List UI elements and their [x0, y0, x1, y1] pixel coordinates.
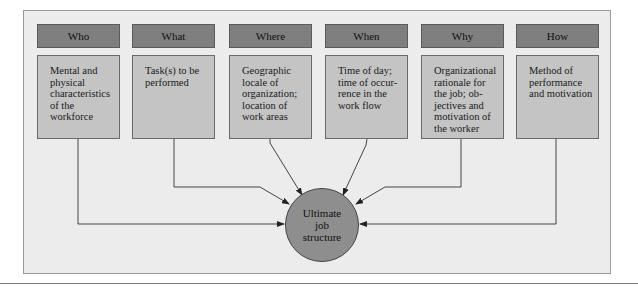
arrow-how: [360, 139, 556, 224]
arrow-why: [356, 139, 461, 204]
arrow-what: [174, 139, 289, 204]
arrow-who: [78, 139, 284, 224]
arrow-where: [270, 139, 302, 195]
ultimate-job-structure-node: Ultimate job structure: [285, 188, 359, 262]
arrow-when: [343, 139, 367, 195]
center-label: Ultimate job structure: [298, 207, 346, 243]
